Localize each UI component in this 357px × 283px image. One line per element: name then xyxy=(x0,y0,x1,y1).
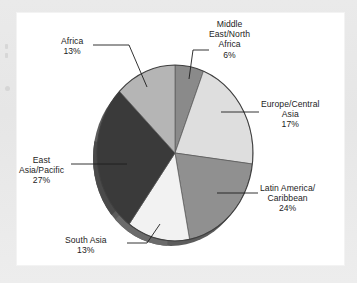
pie-label-middle-east-line2: East/North xyxy=(209,29,250,39)
pie-label-south-asia-name: South Asia xyxy=(65,235,107,245)
pie-label-africa-name: Africa xyxy=(61,36,83,46)
pie-label-middle-east-value: 6% xyxy=(209,50,250,60)
pie-label-east-asia-line1: East xyxy=(19,155,64,165)
pie-label-south-asia-value: 13% xyxy=(65,245,107,255)
pie-label-latin-america-caribbean: Latin America/ Caribbean 24% xyxy=(260,183,315,214)
pie-label-south-asia: South Asia 13% xyxy=(65,235,107,255)
pie-label-middle-east-line1: Middle xyxy=(209,19,250,29)
pie-label-europe-value: 17% xyxy=(261,119,320,129)
pie-label-europe-line1: Europe/Central xyxy=(261,99,320,109)
pie-label-middle-east-north-africa: Middle East/North Africa 6% xyxy=(209,19,250,60)
scan-artifact xyxy=(5,44,8,49)
page-background: Africa 13% Middle East/North Africa 6% E… xyxy=(0,0,357,283)
scan-artifact xyxy=(5,86,10,91)
pie-label-europe-central-asia: Europe/Central Asia 17% xyxy=(261,99,320,130)
pie-label-east-asia-pacific: East Asia/Pacific 27% xyxy=(19,155,64,186)
pie-label-latin-america-line2: Caribbean xyxy=(260,193,315,203)
pie-label-africa: Africa 13% xyxy=(61,36,83,56)
pie-label-east-asia-line2: Asia/Pacific xyxy=(19,165,64,175)
pie-label-latin-america-value: 24% xyxy=(260,203,315,213)
pie-label-africa-value: 13% xyxy=(61,46,83,56)
pie-label-latin-america-line1: Latin America/ xyxy=(260,183,315,193)
scan-artifact xyxy=(5,53,8,58)
pie-label-europe-line2: Asia xyxy=(261,109,320,119)
pie-chart: Africa 13% Middle East/North Africa 6% E… xyxy=(17,13,344,265)
pie-label-east-asia-value: 27% xyxy=(19,175,64,185)
pie-label-middle-east-line3: Africa xyxy=(209,39,250,49)
figure-panel: Africa 13% Middle East/North Africa 6% E… xyxy=(17,13,344,265)
